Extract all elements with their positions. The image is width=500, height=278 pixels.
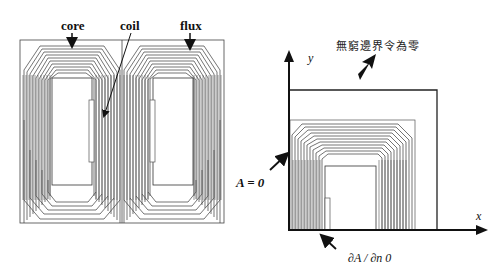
label-flux: flux — [180, 18, 202, 33]
transformer-flux-plot: core coil flux — [20, 18, 224, 223]
y-axis-label: y — [307, 51, 314, 65]
core-window-left — [52, 78, 92, 185]
y-axis-arrow-icon — [284, 50, 294, 62]
quarter-flux-contours — [290, 120, 415, 230]
label-core: core — [61, 18, 85, 33]
boundary-condition-plot: 無窮邊界令為零 — [235, 39, 488, 265]
core-window-quarter — [325, 166, 376, 230]
boundary-arrow-icon — [358, 54, 376, 80]
infinite-boundary-note: 無窮邊界令為零 — [336, 39, 420, 53]
neumann-arrow-icon — [322, 236, 336, 249]
coil-slot-right — [150, 100, 155, 162]
label-coil: coil — [120, 18, 140, 33]
neumann-label: ∂A / ∂n 0 — [348, 251, 391, 265]
x-axis-arrow-icon — [476, 225, 488, 235]
core-window-right — [153, 78, 193, 185]
dirichlet-label: A = 0 — [235, 175, 265, 190]
figure-canvas: core coil flux 無窮邊界令為零 — [0, 0, 500, 278]
coil-slot-quarter — [325, 198, 330, 230]
dirichlet-arrow-icon — [270, 154, 287, 170]
coil-slot-left — [89, 100, 94, 162]
x-axis-label: x — [475, 209, 482, 223]
